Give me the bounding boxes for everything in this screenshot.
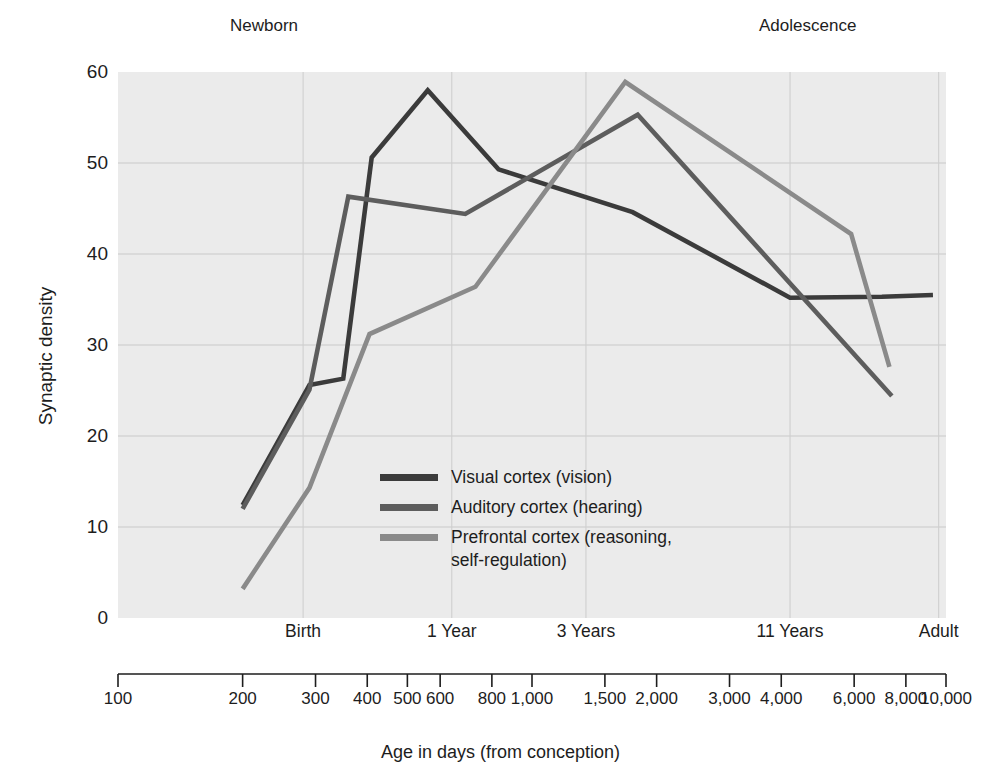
stage-label-3-years: 3 Years <box>557 621 615 642</box>
x-tick-4000: 4,000 <box>760 689 803 709</box>
x-tick-200: 200 <box>228 689 256 709</box>
annotation-adolescence: Adolescence <box>759 16 856 36</box>
legend-swatch-prefrontal <box>380 534 438 541</box>
stage-label-11-years: 11 Years <box>757 621 824 642</box>
x-tick-1500: 1,500 <box>584 689 627 709</box>
y-tick-30: 30 <box>48 334 108 356</box>
stage-label-1-year: 1 Year <box>427 621 477 642</box>
y-tick-60: 60 <box>48 61 108 83</box>
stage-label-birth: Birth <box>285 621 321 642</box>
annotation-newborn: Newborn <box>230 16 298 36</box>
legend-swatch-visual <box>380 474 438 481</box>
x-tick-300: 300 <box>301 689 329 709</box>
legend: Visual cortex (vision) Auditory cortex (… <box>380 466 672 579</box>
legend-item-prefrontal[interactable]: Prefrontal cortex (reasoning, self-regul… <box>380 526 672 572</box>
y-tick-40: 40 <box>48 243 108 265</box>
x-tick-500: 500 <box>393 689 421 709</box>
legend-item-visual[interactable]: Visual cortex (vision) <box>380 466 672 489</box>
x-tick-2000: 2,000 <box>635 689 678 709</box>
legend-label-auditory: Auditory cortex (hearing) <box>451 496 643 519</box>
y-tick-20: 20 <box>48 425 108 447</box>
series-line <box>243 115 892 509</box>
series-line <box>243 90 933 505</box>
x-axis-title: Age in days (from conception) <box>0 742 1001 763</box>
legend-item-auditory[interactable]: Auditory cortex (hearing) <box>380 496 672 519</box>
legend-swatch-auditory <box>380 504 438 511</box>
x-tick-400: 400 <box>353 689 381 709</box>
y-tick-0: 0 <box>48 607 108 629</box>
stage-label-adult: Adult <box>919 621 959 642</box>
figure-page: and bright colours and new the early yea… <box>0 0 1001 783</box>
x-tick-3000: 3,000 <box>708 689 751 709</box>
y-tick-50: 50 <box>48 152 108 174</box>
legend-label-visual: Visual cortex (vision) <box>451 466 612 489</box>
x-tick-1000: 1,000 <box>511 689 554 709</box>
y-axis: 60 50 40 30 20 10 0 <box>40 72 108 618</box>
x-tick-6000: 6,000 <box>833 689 876 709</box>
legend-label-prefrontal: Prefrontal cortex (reasoning, self-regul… <box>451 526 672 572</box>
x-tick-100: 100 <box>104 689 132 709</box>
x-tick-800: 800 <box>478 689 506 709</box>
x-tick-600: 600 <box>426 689 454 709</box>
x-tick-10000: 10,000 <box>920 689 972 709</box>
y-tick-10: 10 <box>48 516 108 538</box>
